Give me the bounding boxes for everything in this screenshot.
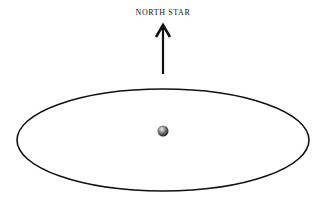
orbit-ellipse xyxy=(17,89,309,191)
arrow-up-icon xyxy=(156,25,170,74)
diagram-graphics xyxy=(0,0,326,199)
diagram-canvas: NORTH STAR xyxy=(0,0,326,199)
central-body xyxy=(158,126,169,137)
